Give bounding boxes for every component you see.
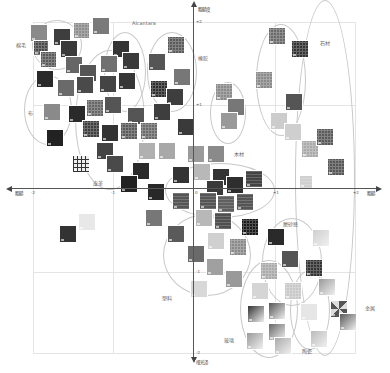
texture-swatch xyxy=(187,145,205,163)
texture-swatch xyxy=(339,313,357,331)
texture-swatch xyxy=(229,238,247,256)
x-tick-neg1: -1 xyxy=(111,190,115,195)
texture-swatch xyxy=(106,155,124,173)
perceptual-map: -2 -1 0 +1 +2 +2 +1 -1 -2 粗糙 粗糙 粗糙度 哑光泽 … xyxy=(0,0,390,373)
texture-swatch xyxy=(59,225,77,243)
category-label-stone: 石材 xyxy=(320,40,330,46)
x-axis-left-label: 粗糙 xyxy=(14,191,24,196)
x-axis-left-arrow-icon xyxy=(6,186,12,192)
texture-swatch xyxy=(299,175,313,189)
texture-swatch xyxy=(101,124,119,142)
texture-swatch xyxy=(241,218,259,236)
texture-swatch xyxy=(86,99,104,117)
category-label-cloth: 布 xyxy=(28,110,33,116)
category-label-frosted: 磨砂感 xyxy=(283,221,298,227)
texture-swatch xyxy=(153,103,171,121)
texture-swatch xyxy=(260,262,278,280)
texture-swatch xyxy=(281,250,299,268)
y-axis xyxy=(193,6,194,358)
texture-swatch xyxy=(217,195,235,213)
texture-swatch xyxy=(305,259,323,277)
texture-swatch xyxy=(78,213,96,231)
texture-swatch xyxy=(118,72,136,90)
texture-swatch xyxy=(104,96,122,114)
category-label-wood: 木材 xyxy=(234,151,244,157)
texture-swatch xyxy=(167,36,185,54)
y-tick-neg1: -1 xyxy=(196,269,200,274)
texture-swatch xyxy=(220,112,238,130)
texture-swatch xyxy=(187,245,205,263)
texture-swatch xyxy=(40,51,57,68)
category-label-ceramic: 陶瓷 xyxy=(302,348,312,354)
y-axis-up-arrow-icon xyxy=(191,1,197,7)
category-label-glass: 玻璃 xyxy=(224,337,234,343)
y-axis-top-label: 粗糙度 xyxy=(197,7,211,12)
alcantara-label: Alcantara xyxy=(132,20,156,26)
texture-swatch xyxy=(138,142,156,160)
texture-swatch xyxy=(73,22,90,39)
x-axis-right-arrow-icon xyxy=(376,186,382,192)
texture-swatch xyxy=(206,258,224,276)
texture-swatch xyxy=(291,40,309,58)
texture-swatch xyxy=(255,71,273,89)
texture-swatch xyxy=(120,175,138,193)
texture-swatch xyxy=(316,128,334,146)
texture-swatch xyxy=(148,53,166,71)
texture-swatch xyxy=(167,225,185,243)
texture-swatch xyxy=(268,302,286,320)
texture-swatch xyxy=(247,305,265,323)
texture-swatch xyxy=(172,192,190,210)
texture-swatch xyxy=(267,228,285,246)
texture-swatch xyxy=(46,129,64,147)
texture-swatch xyxy=(147,183,165,201)
texture-swatch xyxy=(214,212,232,230)
texture-swatch xyxy=(207,232,225,250)
x-tick-zero: 0 xyxy=(195,190,198,195)
texture-swatch xyxy=(312,229,330,247)
x-tick-neg2: -2 xyxy=(31,190,35,195)
texture-swatch xyxy=(226,176,244,194)
texture-swatch xyxy=(43,103,61,121)
y-tick-neg2: -2 xyxy=(196,350,200,355)
y-tick-pos2: +2 xyxy=(196,19,202,24)
x-axis xyxy=(12,188,376,189)
texture-swatch xyxy=(100,55,118,73)
texture-swatch xyxy=(300,303,318,321)
texture-swatch xyxy=(245,170,263,188)
texture-swatch xyxy=(72,155,90,173)
texture-swatch xyxy=(236,193,254,211)
texture-swatch xyxy=(268,27,286,45)
texture-swatch xyxy=(199,192,217,210)
texture-swatch xyxy=(99,75,117,93)
texture-swatch xyxy=(82,120,100,138)
texture-swatch xyxy=(122,52,140,70)
x-axis-right-label: 粗糙 xyxy=(366,191,376,196)
texture-swatch xyxy=(145,209,163,227)
texture-swatch xyxy=(251,282,269,300)
category-label-leather: 皮革 xyxy=(93,180,103,186)
texture-swatch xyxy=(173,68,191,86)
texture-swatch xyxy=(120,122,138,140)
texture-swatch xyxy=(274,337,292,355)
x-tick-pos1: +1 xyxy=(273,190,279,195)
y-tick-pos1: +1 xyxy=(196,102,202,107)
texture-swatch xyxy=(92,17,110,35)
texture-swatch xyxy=(193,163,211,181)
texture-swatch xyxy=(225,270,243,288)
category-label-wool: 棉毛 xyxy=(16,42,26,48)
texture-swatch xyxy=(195,209,213,227)
texture-swatch xyxy=(158,142,176,160)
texture-swatch xyxy=(36,70,54,88)
texture-swatch xyxy=(284,282,302,300)
texture-swatch xyxy=(310,330,328,348)
texture-swatch xyxy=(246,332,264,350)
category-label-rubber: 橡胶 xyxy=(198,55,208,61)
category-label-plastic: 塑料 xyxy=(162,295,172,301)
texture-swatch xyxy=(285,93,303,111)
texture-swatch xyxy=(284,123,302,141)
texture-swatch xyxy=(76,76,94,94)
texture-swatch xyxy=(172,166,190,184)
texture-swatch xyxy=(207,145,225,163)
texture-swatch xyxy=(318,278,336,296)
texture-swatch xyxy=(57,79,75,97)
